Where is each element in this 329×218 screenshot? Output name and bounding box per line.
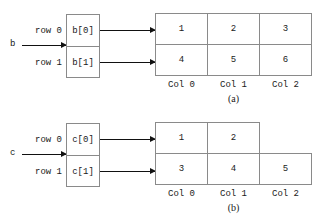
pointer-cell-label-b1: b[1]	[72, 58, 94, 68]
pointer-cell-c0: c[0]	[67, 124, 99, 156]
column-label-1-b: Col 1	[207, 189, 260, 199]
arrow-variable-to-pointer-array-a	[22, 45, 66, 46]
data-cell-value: 1	[179, 133, 184, 143]
pointer-cell-b0: b[0]	[67, 15, 99, 47]
column-label-2-a: Col 2	[259, 80, 312, 90]
data-cell-value: 6	[283, 55, 288, 65]
arrow-pointer-b1-to-row1	[100, 62, 155, 63]
data-cell-b-r0c0: 1	[155, 122, 208, 154]
pointer-cell-c1: c[1]	[67, 156, 99, 188]
arrow-pointer-b0-to-row0	[100, 30, 155, 31]
data-cell-value: 5	[231, 55, 236, 65]
data-cell-b-r1c0: 3	[155, 153, 208, 185]
data-cell-b-r1c2: 5	[259, 153, 312, 185]
data-cell-value: 2	[231, 24, 236, 34]
row-label-0-a: row 0	[14, 26, 62, 36]
figure-caption-b: (b)	[155, 202, 312, 213]
arrow-variable-to-pointer-array-b	[22, 154, 66, 155]
data-cell-value: 3	[179, 164, 184, 174]
column-label-2-b: Col 2	[259, 189, 312, 199]
variable-label-b: b	[10, 39, 15, 49]
data-cell-value: 5	[283, 164, 288, 174]
figure-a: b row 0 row 1 b[0] b[1] 1 2	[0, 0, 329, 109]
variable-label-c: c	[10, 148, 15, 158]
diagram-canvas: b row 0 row 1 b[0] b[1] 1 2	[0, 0, 329, 218]
pointer-array-b: c[0] c[1]	[66, 123, 100, 187]
data-cell-a-r0c0: 1	[155, 13, 208, 45]
row-label-1-b: row 1	[14, 167, 62, 177]
arrow-pointer-c1-to-row1	[100, 171, 155, 172]
column-label-0-b: Col 0	[155, 189, 208, 199]
data-cell-a-r0c2: 3	[259, 13, 312, 45]
pointer-cell-label-c1: c[1]	[72, 167, 94, 177]
data-cell-a-r1c1: 5	[207, 44, 260, 76]
data-cell-value: 3	[283, 24, 288, 34]
pointer-cell-label-c0: c[0]	[72, 135, 94, 145]
data-cell-a-r0c1: 2	[207, 13, 260, 45]
figure-caption-a: (a)	[155, 93, 312, 104]
figure-b: c row 0 row 1 c[0] c[1] 1 2	[0, 109, 329, 218]
column-label-1-a: Col 1	[207, 80, 260, 90]
data-cell-a-r1c2: 6	[259, 44, 312, 76]
column-label-0-a: Col 0	[155, 80, 208, 90]
row-label-1-a: row 1	[14, 58, 62, 68]
arrow-pointer-c0-to-row0	[100, 139, 155, 140]
data-cell-b-r0c1: 2	[207, 122, 260, 154]
row-label-0-b: row 0	[14, 135, 62, 145]
pointer-cell-b1: b[1]	[67, 47, 99, 79]
data-cell-value: 1	[179, 24, 184, 34]
data-cell-value: 4	[179, 55, 184, 65]
pointer-array-a: b[0] b[1]	[66, 14, 100, 78]
data-cell-b-r1c1: 4	[207, 153, 260, 185]
pointer-cell-label-b0: b[0]	[72, 26, 94, 36]
data-cell-a-r1c0: 4	[155, 44, 208, 76]
data-cell-value: 4	[231, 164, 236, 174]
data-cell-value: 2	[231, 133, 236, 143]
